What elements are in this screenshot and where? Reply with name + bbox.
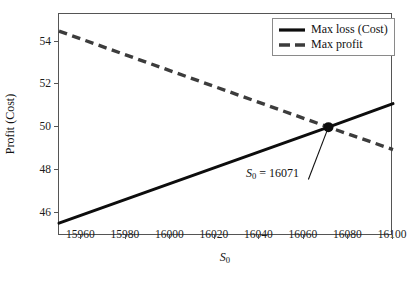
annotation-leader-line xyxy=(308,127,328,179)
chart-figure: Profit (Cost) 46485052541596015980160001… xyxy=(0,0,411,287)
x-axis-title-sub: 0 xyxy=(226,255,230,265)
x-tick-mark-0 xyxy=(80,235,81,239)
y-tick-label-3: 52 xyxy=(40,77,52,89)
legend-line-sample-0 xyxy=(278,24,306,36)
caption-strip xyxy=(0,272,411,287)
y-tick-label-0: 46 xyxy=(40,206,52,218)
x-tick-mark-4 xyxy=(258,235,259,239)
legend-label-0: Max loss (Cost) xyxy=(311,23,388,36)
y-tick-label-2: 50 xyxy=(40,120,52,132)
legend-line-sample-1 xyxy=(278,39,306,51)
y-tick-mark-1 xyxy=(54,169,58,170)
y-tick-mark-3 xyxy=(54,83,58,84)
series-line-0 xyxy=(59,104,393,224)
x-tick-mark-3 xyxy=(214,235,215,239)
legend-entry-0[interactable]: Max loss (Cost) xyxy=(278,22,388,37)
x-tick-mark-5 xyxy=(303,235,304,239)
y-tick-label-4: 54 xyxy=(40,35,52,47)
y-tick-mark-2 xyxy=(54,126,58,127)
y-axis-title-wrapper: Profit (Cost) xyxy=(16,13,38,235)
y-axis-title: Profit (Cost) xyxy=(3,94,18,154)
x-tick-mark-7 xyxy=(392,235,393,239)
x-tick-mark-1 xyxy=(125,235,126,239)
x-axis-title: S0 xyxy=(58,250,392,265)
legend-entry-1[interactable]: Max profit xyxy=(278,37,388,52)
y-tick-mark-4 xyxy=(54,41,58,42)
annotation-label: S0 = 16071 xyxy=(246,166,299,181)
annotation-value: = 16071 xyxy=(256,166,299,180)
legend-label-1: Max profit xyxy=(311,38,363,51)
x-tick-mark-2 xyxy=(169,235,170,239)
legend[interactable]: Max loss (Cost)Max profit xyxy=(272,18,395,56)
y-tick-mark-0 xyxy=(54,212,58,213)
y-tick-label-1: 48 xyxy=(40,163,52,175)
x-tick-mark-6 xyxy=(347,235,348,239)
